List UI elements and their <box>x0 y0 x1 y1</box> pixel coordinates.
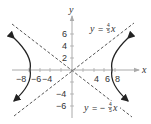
svg-text:y: y <box>83 102 89 113</box>
svg-text:y: y <box>89 23 95 34</box>
y-tick-label: 4 <box>62 41 67 51</box>
y-tick-label: 6 <box>62 29 67 39</box>
x-tick-label: −8 <box>16 74 26 84</box>
x-tick-label: 4 <box>94 74 99 84</box>
y-tick-label: 2 <box>62 53 67 63</box>
x-tick-label: 6 <box>105 74 110 84</box>
x-tick-label: −6 <box>31 74 41 84</box>
svg-text:=: = <box>98 24 103 34</box>
asymptote-label-negative: y = − 4 5 x <box>82 101 120 113</box>
svg-text:x: x <box>112 102 118 113</box>
x-tick-label: −4 <box>42 74 52 84</box>
y-tick-label: −4 <box>56 89 66 99</box>
asymptote-label-positive: y = 4 5 x <box>88 22 119 34</box>
svg-text:= −: = − <box>92 103 105 113</box>
y-tick-label: −6 <box>56 101 66 111</box>
x-tick-label: 8 <box>115 74 120 84</box>
svg-text:5: 5 <box>107 28 110 34</box>
x-axis-label: x <box>141 64 147 75</box>
y-axis-label: y <box>68 4 74 15</box>
svg-text:x: x <box>110 23 116 34</box>
hyperbola-chart: x y −8 −6 −4 4 6 8 6 4 2 −4 −6 y = 4 5 x… <box>0 0 151 124</box>
svg-text:5: 5 <box>109 107 112 113</box>
